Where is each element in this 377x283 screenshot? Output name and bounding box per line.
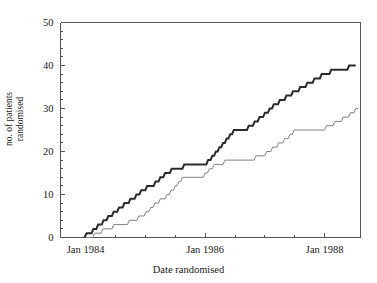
y-axis-title: no. of patientsrandomised [4, 74, 26, 164]
y-tick-label: 20 [43, 146, 54, 157]
series-group-a-bold [84, 66, 355, 238]
series-group-b-thin [86, 109, 359, 238]
y-axis-title-line: no. of patients [4, 74, 15, 164]
y-tick-label: 30 [43, 103, 54, 114]
y-tick-label: 50 [43, 17, 54, 28]
recruitment-step-chart: 01020304050Jan 1984Jan 1986Jan 1988 [0, 0, 377, 283]
y-tick-label: 10 [43, 189, 54, 200]
x-tick-label: Jan 1986 [186, 244, 224, 255]
x-axis-title: Date randomised [0, 264, 377, 275]
x-tick-label: Jan 1984 [67, 244, 105, 255]
y-tick-label: 0 [48, 232, 53, 243]
y-axis-title-line: randomised [15, 74, 26, 164]
x-tick-label: Jan 1988 [306, 244, 344, 255]
chart-figure: 01020304050Jan 1984Jan 1986Jan 1988 no. … [0, 0, 377, 283]
y-tick-label: 40 [43, 60, 54, 71]
